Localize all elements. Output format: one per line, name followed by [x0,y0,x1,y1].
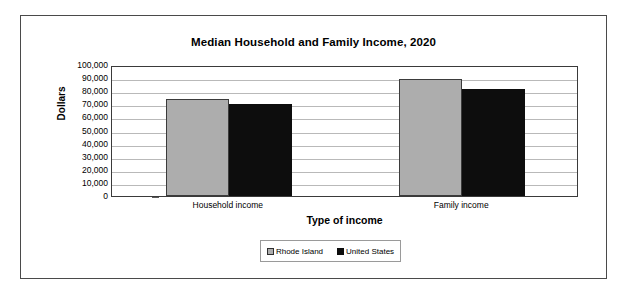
legend-label-rhode-island: Rhode Island [276,247,323,256]
bar [399,79,462,196]
y-tick-label: 80,000 [48,87,108,96]
chart-legend: Rhode Island United States [260,240,401,262]
gridline [112,80,577,81]
bar [462,89,525,196]
bar [166,99,229,196]
legend-item-rhode-island: Rhode Island [267,247,323,256]
y-tick-label: 90,000 [48,74,108,83]
y-tick-label: 10,000 [48,179,108,188]
legend-item-united-states: United States [337,247,394,256]
y-tick-label: 0 [48,192,108,201]
x-tick-label: Family income [401,200,521,210]
y-tick-label: 60,000 [48,113,108,122]
y-tick-label: 70,000 [48,100,108,109]
legend-label-united-states: United States [346,247,394,256]
x-tick-label: Household income [168,200,288,210]
legend-swatch-icon-united-states [337,248,344,255]
plot-area [111,66,578,197]
x-axis-title: Type of income [111,214,578,226]
chart-figure: Median Household and Family Income, 2020… [0,0,627,296]
y-axis-tick-labels: 100,00090,00080,00070,00060,00050,00040,… [48,60,108,203]
chart-title: Median Household and Family Income, 2020 [0,36,627,48]
y-tick-label: 100,000 [48,61,108,70]
y-tick-label: 40,000 [48,140,108,149]
y-tick-label: 30,000 [48,153,108,162]
y-tick-label: 50,000 [48,127,108,136]
legend-swatch-icon-rhode-island [267,248,274,255]
y-tick-label: 20,000 [48,166,108,175]
bar [229,104,292,196]
y-tick-mark [152,197,159,198]
